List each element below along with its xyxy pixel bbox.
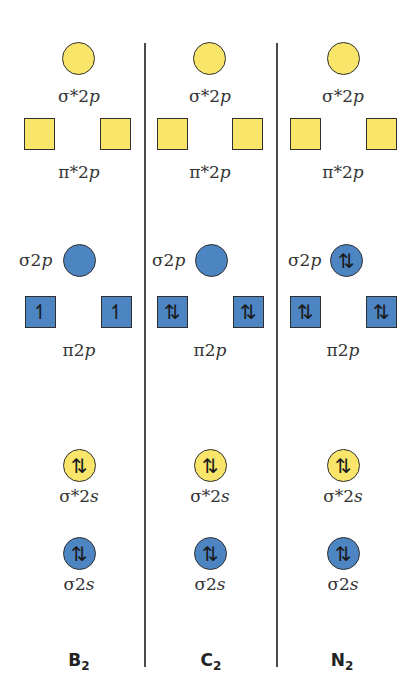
label-pi-2p: π2p [194, 340, 227, 360]
orbital-sigma-star-2p [193, 42, 226, 75]
molecule-label-b2: B2 [68, 650, 89, 673]
label-sigma-star-2p: σ*2p [58, 86, 100, 106]
label-pi-star-2p: π*2p [322, 162, 363, 182]
label-pi-2p: π2p [327, 340, 360, 360]
orbital-pi-star-2p-left [290, 118, 321, 150]
orbital-sigma-2s: ⇅ [63, 537, 96, 570]
label-sigma-2s: σ2s [63, 574, 94, 594]
orbital-pi-2p-left: ⇅ [290, 296, 321, 328]
orbital-sigma-2s: ⇅ [194, 537, 227, 570]
label-sigma-2p: σ2p [19, 250, 52, 270]
orbital-pi-2p-right: ⇅ [366, 296, 397, 328]
orbital-sigma-star-2s: ⇅ [194, 449, 227, 482]
orbital-sigma-star-2p [62, 42, 95, 75]
orbital-pi-2p-right: ↿ [101, 296, 132, 328]
orbital-pi-star-2p-right [366, 118, 397, 150]
orbital-sigma-star-2s: ⇅ [63, 449, 96, 482]
orbital-sigma-star-2p [327, 42, 360, 75]
label-sigma-2s: σ2s [194, 574, 225, 594]
orbital-pi-star-2p-left [157, 118, 188, 150]
label-sigma-star-2s: σ*2s [323, 486, 363, 506]
label-sigma-2p: σ2p [288, 250, 321, 270]
divider-b2-c2 [144, 43, 146, 667]
label-sigma-star-2p: σ*2p [322, 86, 364, 106]
molecule-label-n2: N2 [331, 650, 354, 673]
label-sigma-2s: σ2s [327, 574, 358, 594]
label-pi-star-2p: π*2p [58, 162, 99, 182]
orbital-pi-2p-left: ↿ [25, 296, 56, 328]
orbital-sigma-2p: ⇅ [330, 244, 363, 277]
orbital-sigma-star-2s: ⇅ [327, 449, 360, 482]
orbital-pi-star-2p-right [100, 118, 131, 150]
orbital-sigma-2s: ⇅ [327, 537, 360, 570]
orbital-pi-star-2p-left [24, 118, 55, 150]
label-pi-star-2p: π*2p [189, 162, 230, 182]
label-sigma-star-2s: σ*2s [59, 486, 99, 506]
orbital-sigma-2p [63, 244, 96, 277]
molecule-label-c2: C2 [201, 650, 222, 673]
label-sigma-2p: σ2p [152, 250, 185, 270]
label-sigma-star-2s: σ*2s [190, 486, 230, 506]
orbital-sigma-2p [195, 244, 228, 277]
orbital-pi-2p-left: ⇅ [157, 296, 188, 328]
orbital-pi-star-2p-right [232, 118, 263, 150]
orbital-pi-2p-right: ⇅ [233, 296, 264, 328]
label-pi-2p: π2p [63, 340, 96, 360]
label-sigma-star-2p: σ*2p [189, 86, 231, 106]
divider-c2-n2 [276, 43, 278, 667]
